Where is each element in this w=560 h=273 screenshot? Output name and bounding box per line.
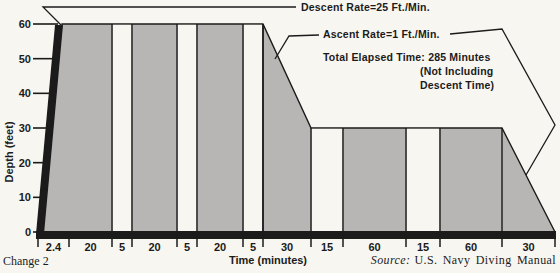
depth-axis-title: Depth (feet) (3, 107, 17, 197)
y-tick-label: 10 (19, 191, 31, 203)
source-line: Source:U.S. Navy Diving Manual (371, 253, 556, 268)
x-segment-label: 20 (84, 241, 96, 253)
y-tick-label: 40 (19, 87, 31, 99)
descent-rate-annotation: Descent Rate=25 Ft./Min. (301, 1, 430, 13)
y-tick-label: 60 (19, 18, 31, 30)
change-note: Change 2 (3, 254, 49, 269)
surface-interval-gap (178, 25, 197, 232)
surface-interval-gap (113, 25, 132, 232)
x-segment-label: 5 (184, 241, 190, 253)
x-segment-label: 5 (250, 241, 256, 253)
surface-interval-gap (244, 25, 263, 232)
source-text: U.S. Navy Diving Manual (414, 253, 556, 267)
x-segment-label: 60 (465, 241, 477, 253)
surface-interval-gap (407, 129, 440, 232)
total-elapsed-note-line2: Descent Time) (420, 79, 494, 91)
time-axis-title: Time (minutes) (229, 254, 307, 266)
time-axis-bar (36, 231, 556, 239)
dive-profile-chart: 2.42052052053015601560306050403020100 (0, 0, 560, 273)
x-segment-label: 30 (281, 241, 293, 253)
y-tick-label: 50 (19, 53, 31, 65)
x-segment-label: 15 (321, 241, 333, 253)
x-segment-label: 20 (214, 241, 226, 253)
y-tick-label: 20 (19, 157, 31, 169)
surface-interval-gap (312, 129, 343, 232)
descent-rate-leader-line (43, 7, 296, 25)
total-elapsed-time-annotation: Total Elapsed Time: 285 Minutes (323, 51, 490, 63)
x-segment-label: 30 (522, 241, 534, 253)
y-tick-label: 0 (25, 226, 31, 238)
diving-manual-figure: 2.42052052053015601560306050403020100 De… (0, 0, 560, 273)
ascent-rate-annotation: Ascent Rate=1 Ft./Min. (323, 28, 440, 40)
source-label: Source: (371, 253, 411, 267)
x-segment-label: 20 (148, 241, 160, 253)
x-segment-label: 60 (368, 241, 380, 253)
total-elapsed-note-line1: (Not Including (420, 65, 493, 77)
x-segment-label: 2.4 (46, 241, 62, 253)
x-segment-label: 5 (119, 241, 125, 253)
y-tick-label: 30 (19, 122, 31, 134)
ascent-callout-left-line (275, 35, 319, 59)
x-segment-label: 15 (417, 241, 429, 253)
